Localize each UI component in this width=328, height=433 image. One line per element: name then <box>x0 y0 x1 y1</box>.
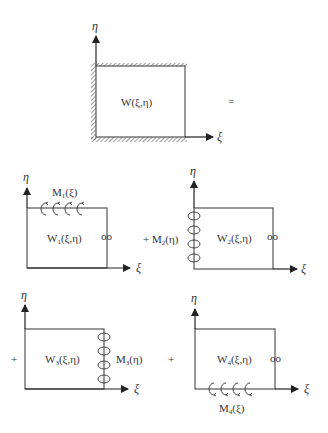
xi-label: ξ <box>217 130 223 144</box>
eta-label: η <box>21 288 27 302</box>
plus-sign: + <box>11 353 17 365</box>
equals-sign: = <box>228 95 234 107</box>
free-edge-symbol: oo <box>267 230 279 242</box>
function-label: W3(ξ,η) <box>45 353 80 367</box>
function-label: W(ξ,η) <box>121 96 152 109</box>
plus-sign: + <box>168 353 174 365</box>
xi-label: ξ <box>304 382 310 396</box>
free-edge-symbol: oo <box>101 230 113 242</box>
superposition-diagram: η ξ W(ξ,η) = η ξ M1(ξ) W1(ξ,η) oo η ξ <box>0 0 328 433</box>
panel-4: + η ξ W4(ξ,η) oo M4(ξ) <box>168 291 310 416</box>
free-edge-symbol: oo <box>270 352 282 364</box>
panel-3: + η ξ W3(ξ,η) M3(η) <box>11 288 143 396</box>
function-label: W4(ξ,η) <box>217 353 252 367</box>
function-label: W2(ξ,η) <box>217 232 252 246</box>
clamped-edge-left <box>91 63 96 140</box>
xi-label: ξ <box>134 382 140 396</box>
moment-label: M1(ξ) <box>52 186 78 200</box>
top-panel: η ξ W(ξ,η) = <box>91 19 234 144</box>
eta-label: η <box>191 291 197 305</box>
eta-label: η <box>23 170 29 184</box>
panel-2: η ξ + M2(η) W2(ξ,η) oo <box>143 164 307 276</box>
function-label: W1(ξ,η) <box>47 232 82 246</box>
moment-label: M3(η) <box>116 353 143 367</box>
moment-label: + M2(η) <box>143 233 179 247</box>
panel-1: η ξ M1(ξ) W1(ξ,η) oo <box>23 170 142 275</box>
xi-label: ξ <box>136 261 142 275</box>
clamped-edge-bottom <box>91 137 187 142</box>
xi-label: ξ <box>301 262 307 276</box>
eta-label: η <box>92 19 98 33</box>
moment-label: M4(ξ) <box>219 402 245 416</box>
eta-label: η <box>190 164 196 178</box>
